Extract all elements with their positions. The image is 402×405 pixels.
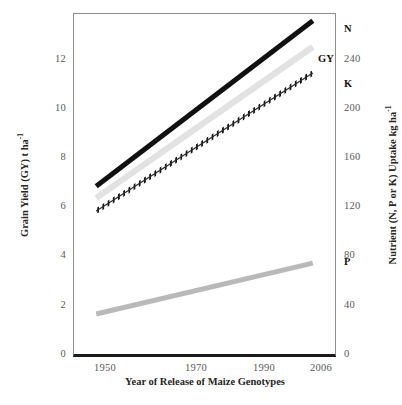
series-label-k: K <box>344 78 352 89</box>
series-label-n: N <box>344 23 352 34</box>
xtick-2006: 2006 <box>310 362 332 373</box>
y-axis-right-title-sup: -1 <box>384 106 393 112</box>
xtick-1970: 1970 <box>185 362 207 373</box>
chart-figure: N GY K P 12 10 8 6 4 2 0 240 200 160 120… <box>0 0 402 405</box>
ytick-left-6: 6 <box>61 200 66 211</box>
ytick-left-8: 8 <box>61 151 66 162</box>
y-axis-left-title-text: Grain Yield (GY) t ha <box>19 139 30 237</box>
ytick-right-40: 40 <box>344 299 355 310</box>
x-axis-title: Year of Release of Maize Genotypes <box>125 376 285 387</box>
series-label-gy: GY <box>318 53 334 64</box>
y-axis-left-title-sup: -1 <box>16 133 25 139</box>
ytick-left-10: 10 <box>55 102 66 113</box>
y-axis-left-title: Grain Yield (GY) t ha-1 <box>19 133 30 237</box>
ytick-right-200: 200 <box>344 102 360 113</box>
xtick-1990: 1990 <box>253 362 275 373</box>
ytick-right-160: 160 <box>344 151 360 162</box>
y-axis-right-title-text: Nutrient (N, P or K) Uptake kg ha <box>387 112 398 265</box>
y-axis-right-title: Nutrient (N, P or K) Uptake kg ha-1 <box>387 106 398 265</box>
ytick-right-240: 240 <box>344 53 360 64</box>
xtick-1950: 1950 <box>94 362 116 373</box>
ytick-right-0: 0 <box>344 348 349 359</box>
ytick-left-2: 2 <box>61 299 66 310</box>
plot-area-frame <box>73 13 336 357</box>
ytick-right-80: 80 <box>344 249 355 260</box>
ytick-left-12: 12 <box>55 53 66 64</box>
ytick-right-120: 120 <box>344 200 360 211</box>
ytick-left-0: 0 <box>61 348 66 359</box>
ytick-left-4: 4 <box>61 249 66 260</box>
